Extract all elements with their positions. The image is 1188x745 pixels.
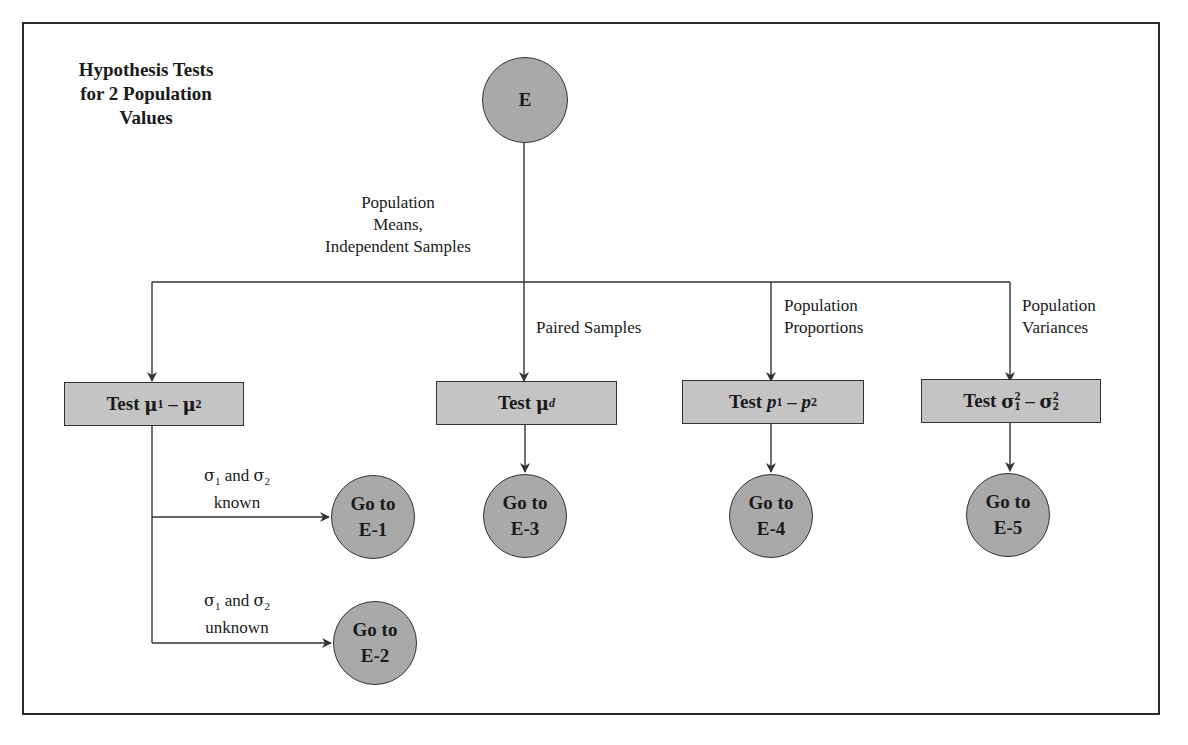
- branch-label-line: Paired Samples: [536, 318, 641, 337]
- branch-label-line: Means,: [258, 214, 538, 236]
- branch-label-line: Population: [258, 192, 538, 214]
- goto-target: E-4: [749, 516, 794, 542]
- box-test-variance-difference: Test σ 21 – σ 22: [921, 379, 1101, 423]
- box-test-proportion-difference: Test p1 – p2: [682, 380, 864, 424]
- condition-label-sigmas-unknown: σ1 and σ2 unknown: [172, 590, 302, 639]
- sigma-symbol: σ: [204, 591, 215, 610]
- branch-label-line: Independent Samples: [258, 236, 538, 258]
- branch-label-independent-means: Population Means, Independent Samples: [258, 192, 538, 258]
- mu-symbol: μ: [536, 393, 549, 414]
- sigma-symbol: σ: [254, 466, 265, 485]
- goto-node-e3: Go toE-3: [483, 474, 567, 558]
- minus-operator: –: [782, 391, 801, 413]
- condition-line-1: σ1 and σ2: [172, 465, 302, 492]
- title-line-3: Values: [56, 106, 236, 130]
- branch-label-line: Population: [784, 295, 863, 317]
- subscript: 2: [196, 397, 202, 412]
- goto-label: Go to: [986, 489, 1031, 515]
- subscript: d: [549, 396, 555, 411]
- goto-node-e1: Go toE-1: [331, 475, 415, 559]
- title-line-1: Hypothesis Tests: [56, 58, 236, 82]
- minus-operator: –: [1020, 390, 1039, 412]
- box-prefix: Test: [106, 393, 144, 415]
- goto-label: Go to: [749, 490, 794, 516]
- p-symbol: p: [767, 391, 777, 413]
- sigma-symbol: σ: [204, 466, 215, 485]
- box-prefix: Test: [963, 390, 1001, 412]
- diagram-title: Hypothesis Tests for 2 Population Values: [56, 58, 236, 130]
- sigma-symbol: σ: [254, 591, 265, 610]
- branch-label-proportions: Population Proportions: [784, 295, 863, 339]
- and-text: and: [220, 466, 253, 485]
- goto-target: E-1: [351, 517, 396, 543]
- subscript: 2: [1053, 401, 1059, 411]
- goto-node-e4: Go toE-4: [729, 474, 813, 558]
- sigma-symbol: σ: [1001, 391, 1014, 412]
- mu-symbol: μ: [182, 394, 195, 415]
- branch-label-variances: Population Variances: [1022, 295, 1096, 339]
- goto-node-e2: Go toE-2: [333, 601, 417, 685]
- branch-label-paired-samples: Paired Samples: [536, 317, 641, 339]
- mu-symbol: μ: [144, 394, 157, 415]
- goto-label: Go to: [351, 491, 396, 517]
- branch-label-line: Population: [1022, 295, 1096, 317]
- p-symbol: p: [801, 391, 811, 413]
- goto-target: E-3: [503, 516, 548, 542]
- goto-target: E-2: [353, 643, 398, 669]
- goto-target: E-5: [986, 515, 1031, 541]
- goto-label: Go to: [503, 490, 548, 516]
- title-line-2: for 2 Population: [56, 82, 236, 106]
- box-prefix: Test: [729, 391, 767, 413]
- box-test-mean-difference: Test μ1 – μ2: [64, 382, 244, 426]
- box-test-paired-mean: Test μd: [436, 381, 617, 425]
- sigma-symbol: σ: [1039, 391, 1052, 412]
- condition-line-2: known: [172, 492, 302, 514]
- condition-line-1: σ1 and σ2: [172, 590, 302, 617]
- subscript: 2: [264, 600, 270, 612]
- condition-line-2: unknown: [172, 617, 302, 639]
- branch-label-line: Proportions: [784, 317, 863, 339]
- subscript: 2: [811, 395, 817, 410]
- and-text: and: [220, 591, 253, 610]
- branch-label-line: Variances: [1022, 317, 1096, 339]
- condition-label-sigmas-known: σ1 and σ2 known: [172, 465, 302, 514]
- sub-sup: 22: [1053, 391, 1059, 411]
- root-node-label: E: [519, 87, 532, 113]
- minus-operator: –: [163, 393, 182, 415]
- goto-node-e5: Go toE-5: [966, 473, 1050, 557]
- box-prefix: Test: [498, 392, 536, 414]
- goto-label: Go to: [353, 617, 398, 643]
- subscript: 2: [264, 475, 270, 487]
- root-node-e: E: [482, 57, 568, 143]
